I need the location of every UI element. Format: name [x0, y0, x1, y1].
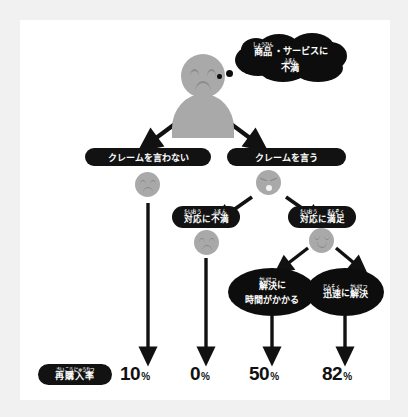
diagram-panel: しょうひん 商品 ・サービスに ふまん 不満 クレームを言わない — [20, 20, 390, 400]
node-slow-resolution[interactable]: かいけつ 解決 に 時間がかかる — [228, 268, 316, 316]
cloud-tail-small — [217, 74, 222, 79]
base-taiou-2: 対応 — [300, 215, 318, 224]
node-slow-line2: 時間がかかる — [245, 293, 299, 306]
base-fuman: 不満 — [281, 64, 299, 73]
value-fast-resolution-number: 82 — [322, 363, 342, 385]
customer-right-eye — [207, 69, 216, 77]
base-fuman-2: 不満 — [211, 215, 229, 224]
base-kaiketsu-2: 解決 — [350, 290, 368, 299]
node-slow-line1-rest: に — [277, 278, 286, 291]
value-unsatisfied-unit: % — [201, 371, 210, 382]
node-complaint-label: クレームを言う — [255, 151, 318, 164]
customer-frown-mouth — [195, 81, 211, 92]
base-manzoku: 満足 — [327, 215, 345, 224]
value-slow-resolution-unit: % — [270, 371, 279, 382]
base-shouhin: 商品 — [254, 48, 272, 57]
arrow-satisfied-to-slow — [282, 248, 308, 268]
base-taiou-1: 対応 — [184, 215, 202, 224]
customer-body — [172, 94, 234, 138]
node-unsatisfied-mid: に — [202, 212, 211, 224]
node-fast-mid: に — [341, 286, 350, 299]
node-unsatisfied-handling[interactable]: たいおう 対応 に ふまん 不満 — [172, 206, 240, 228]
metric-pill-repurchase-rate[interactable]: さい 再 こうにゅうりつ 購入率 — [38, 364, 112, 385]
value-unsatisfied-number: 0 — [190, 363, 200, 385]
node-fast-resolution[interactable]: じんそく 迅速 に かいけつ 解決 — [306, 268, 384, 316]
base-kaiketsu-1: 解決 — [259, 282, 277, 291]
node-no-complaint-label: クレームを言わない — [108, 151, 189, 164]
value-no-complaint-unit: % — [141, 371, 150, 382]
node-complaint[interactable]: クレームを言う — [227, 148, 346, 166]
customer-left-eye — [190, 69, 199, 77]
thought-line1-rest: ・サービスに — [274, 43, 328, 57]
dissatisfied-customer — [181, 54, 225, 138]
base-jinsoku: 迅速 — [323, 290, 341, 299]
node-satisfied-handling[interactable]: たいおう 対応 に まんぞく 満足 — [288, 206, 356, 228]
arrow-satisfied-to-fast — [336, 248, 360, 268]
value-fast-resolution: 82 % — [322, 363, 352, 385]
value-slow-resolution-number: 50 — [249, 363, 269, 385]
value-fast-resolution-unit: % — [343, 371, 352, 382]
face-satisfied-happy — [309, 228, 334, 253]
base-sai: 再 — [55, 372, 65, 381]
face-unsatisfied-sad — [194, 230, 219, 255]
value-no-complaint: 10 % — [120, 363, 150, 385]
customer-thought-bubble: しょうひん 商品 ・サービスに ふまん 不満 — [231, 32, 349, 84]
face-complaint-angry — [256, 170, 281, 195]
face-no-complaint-sad — [135, 172, 160, 197]
base-kounyuuritsu: 購入率 — [65, 372, 95, 381]
value-no-complaint-number: 10 — [120, 363, 140, 385]
node-no-complaint[interactable]: クレームを言わない — [85, 148, 211, 166]
diagram-stage: しょうひん 商品 ・サービスに ふまん 不満 クレームを言わない — [20, 20, 390, 400]
value-unsatisfied: 0 % — [190, 363, 210, 385]
thought-bubble-text: しょうひん 商品 ・サービスに ふまん 不満 — [231, 32, 349, 84]
value-slow-resolution: 50 % — [249, 363, 279, 385]
node-satisfied-mid: に — [318, 212, 327, 224]
screenshot-root: しょうひん 商品 ・サービスに ふまん 不満 クレームを言わない — [0, 0, 408, 417]
